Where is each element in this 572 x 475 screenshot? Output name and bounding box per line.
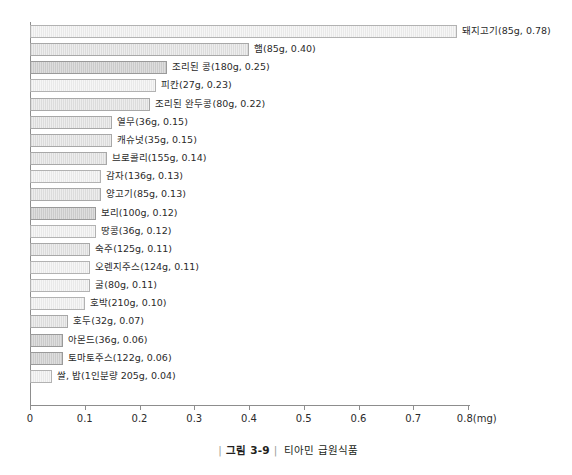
- bar: [30, 25, 457, 38]
- bar: [30, 43, 249, 56]
- x-tick-mark: [249, 405, 250, 410]
- bar-value-label: 감자(136g, 0.13): [106, 169, 183, 183]
- bar-value-label: 호두(32g, 0.07): [73, 314, 144, 328]
- x-tick-label: 0.6: [351, 412, 367, 425]
- figure-caption: |그림 3-9|티아민 급원식품: [0, 443, 572, 458]
- x-tick-mark: [85, 405, 86, 410]
- x-tick-label: 0.2: [132, 412, 148, 425]
- bar: [30, 334, 63, 347]
- bar-value-label: 캐슈넛(35g, 0.15): [117, 133, 197, 147]
- x-tick-mark: [194, 405, 195, 410]
- bar: [30, 61, 167, 74]
- x-tick-label: 0.4: [241, 412, 257, 425]
- x-tick-label: 0.1: [77, 412, 93, 425]
- x-axis-line: [30, 405, 470, 406]
- bar: [30, 207, 96, 220]
- bar: [30, 98, 150, 111]
- bar-value-label: 양고기(85g, 0.13): [106, 187, 186, 201]
- bar-value-label: 조리된 완두콩(80g, 0.22): [155, 97, 265, 111]
- bar-value-label: 토마토주스(122g, 0.06): [68, 351, 172, 365]
- bar: [30, 170, 101, 183]
- bar-value-label: 오렌지주스(124g, 0.11): [95, 260, 199, 274]
- figure-number: 그림 3-9: [226, 444, 270, 456]
- bar: [30, 370, 52, 383]
- bar-value-label: 땅콩(36g, 0.12): [101, 224, 172, 238]
- figure-thiamin-food-sources: 돼지고기(85g, 0.78)햄(85g, 0.40)조리된 콩(180g, 0…: [0, 0, 572, 475]
- bar: [30, 134, 112, 147]
- caption-rule-right: |: [270, 444, 282, 456]
- bar: [30, 279, 90, 292]
- x-tick-label: 0.7: [405, 412, 421, 425]
- bar-value-label: 호박(210g, 0.10): [90, 296, 167, 310]
- x-tick-mark: [140, 405, 141, 410]
- bar-value-label: 굴(80g, 0.11): [95, 278, 157, 292]
- bar-value-label: 쌀, 밥(1인분량 205g, 0.04): [57, 369, 176, 383]
- bar: [30, 315, 68, 328]
- x-tick-mark: [30, 405, 31, 410]
- x-axis-unit-label: 0.8(mg): [457, 412, 497, 425]
- bar-value-label: 브로콜리(155g, 0.14): [112, 151, 207, 165]
- bar: [30, 79, 156, 92]
- caption-rule-left: |: [214, 444, 226, 456]
- bar: [30, 297, 85, 310]
- bar-value-label: 숙주(125g, 0.11): [95, 242, 172, 256]
- figure-title: 티아민 급원식품: [281, 444, 357, 456]
- bar: [30, 243, 90, 256]
- bar-value-label: 햄(85g, 0.40): [254, 42, 316, 56]
- bar: [30, 188, 101, 201]
- bar-value-label: 열무(36g, 0.15): [117, 115, 188, 129]
- bar-value-label: 아몬드(36g, 0.06): [68, 333, 148, 347]
- x-tick-mark: [468, 405, 469, 410]
- x-tick-label: 0.3: [186, 412, 202, 425]
- bar: [30, 152, 107, 165]
- bar-value-label: 보리(100g, 0.12): [101, 206, 178, 220]
- x-tick-mark: [304, 405, 305, 410]
- x-tick-label: 0.5: [296, 412, 312, 425]
- bar: [30, 116, 112, 129]
- x-tick-label: 0: [27, 412, 33, 425]
- x-tick-mark: [413, 405, 414, 410]
- bar: [30, 225, 96, 238]
- bar: [30, 261, 90, 274]
- bar-value-label: 조리된 콩(180g, 0.25): [172, 60, 270, 74]
- bar-value-label: 피칸(27g, 0.23): [161, 78, 232, 92]
- bar: [30, 352, 63, 365]
- x-tick-mark: [359, 405, 360, 410]
- bar-value-label: 돼지고기(85g, 0.78): [462, 24, 551, 38]
